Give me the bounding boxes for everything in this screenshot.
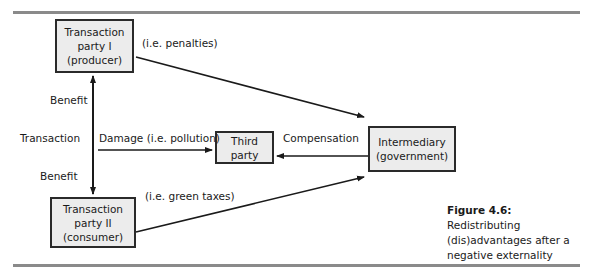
label-benefit-top: Benefit [50, 94, 88, 106]
node-intermediary-line2: (government) [376, 149, 448, 163]
label-green-taxes: (i.e. green taxes) [145, 190, 235, 202]
node-party1-line1: Transaction [64, 25, 124, 39]
node-third-party: Third party [215, 131, 274, 164]
node-party1-line3: (producer) [67, 53, 122, 67]
label-compensation: Compensation [283, 132, 359, 144]
node-intermediary: Intermediary (government) [368, 126, 456, 172]
node-third-line1: Third [231, 134, 258, 148]
label-damage: Damage (i.e. pollution) [99, 132, 220, 144]
node-third-line2: party [231, 148, 259, 162]
penalties-arrow [136, 57, 364, 117]
figure-caption: Figure 4.6: Redistributing (dis)advantag… [447, 203, 587, 263]
node-party2: Transaction party II (consumer) [50, 197, 136, 248]
node-party1-line2: party I [77, 39, 111, 53]
node-intermediary-line1: Intermediary [378, 135, 446, 149]
node-party2-line2: party II [74, 216, 111, 230]
node-party1: Transaction party I (producer) [55, 19, 134, 73]
label-benefit-bottom: Benefit [40, 170, 78, 182]
label-penalties: (i.e. penalties) [142, 37, 218, 49]
caption-text: Redistributing (dis)advantages after a n… [447, 219, 570, 261]
green-taxes-arrow [136, 177, 364, 232]
node-party2-line1: Transaction [63, 202, 123, 216]
caption-number: Figure 4.6: [447, 204, 512, 216]
node-party2-line3: (consumer) [63, 230, 123, 244]
label-transaction: Transaction [20, 132, 80, 144]
